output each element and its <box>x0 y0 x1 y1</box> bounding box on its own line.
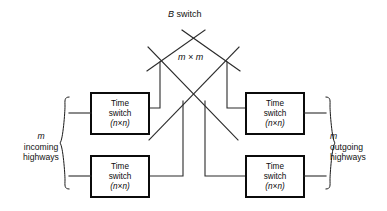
switch-line-1: Time <box>91 162 149 172</box>
diagram-canvas <box>0 0 387 211</box>
incoming-count-symbol: m <box>10 131 72 142</box>
switch-line-3: (n×n) <box>246 182 304 192</box>
incoming-caption-line-2: highways <box>23 152 59 162</box>
switch-label-top-right: Time switch (n×n) <box>246 99 304 130</box>
outgoing-caption-line-2: highways <box>330 152 366 162</box>
switch-line-1: Time <box>246 162 304 172</box>
diagonal-apex-right-to-left <box>147 30 205 71</box>
b-switch-diagram: B switch m × m Time switch (n×n) Time sw… <box>0 0 387 211</box>
switch-line-1: Time <box>91 99 149 109</box>
switch-label-top-left: Time switch (n×n) <box>91 99 149 130</box>
switch-line-3: (n×n) <box>246 119 304 129</box>
switch-label-bottom-right: Time switch (n×n) <box>246 162 304 193</box>
title-suffix: switch <box>174 9 202 19</box>
outgoing-highways-caption: m outgoing highways <box>330 131 386 163</box>
switch-line-3: (n×n) <box>91 119 149 129</box>
switch-line-1: Time <box>246 99 304 109</box>
switch-line-3: (n×n) <box>91 182 149 192</box>
switch-line-2: switch <box>246 172 304 182</box>
diagonal-apex-left-to-right <box>182 30 240 71</box>
switch-line-2: switch <box>91 109 149 119</box>
incoming-highways-caption: m incoming highways <box>10 131 72 163</box>
switch-label-bottom-left: Time switch (n×n) <box>91 162 149 193</box>
switch-line-2: switch <box>246 109 304 119</box>
diagram-title: B switch <box>168 9 202 20</box>
switch-line-2: switch <box>91 172 149 182</box>
outgoing-count-symbol: m <box>330 131 386 142</box>
outgoing-caption-line-1: outgoing <box>330 142 363 152</box>
crossbar-size-label: m × m <box>178 52 203 63</box>
leg-bottom-left-box-to-crossbar <box>148 101 183 176</box>
incoming-caption-line-1: incoming <box>24 142 58 152</box>
